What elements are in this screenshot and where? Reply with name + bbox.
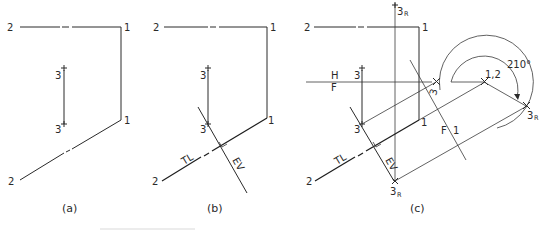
bottom-edge-artifact — [100, 228, 195, 230]
descriptive-geometry-figure: 2 1 3 3 1 2 (a) 2 1 3 3 1 2 TL EV (b) — [0, 0, 543, 231]
label-1-2: 1,2 — [485, 69, 501, 80]
angle-label-210: 210° — [507, 59, 531, 70]
label-3-bottom: 3 — [55, 124, 61, 135]
label-3-top: 3 — [55, 70, 61, 81]
label-f: F — [331, 82, 337, 93]
caption-c: (c) — [410, 202, 425, 215]
caption-a: (a) — [62, 202, 77, 215]
label-1-mid: 1 — [268, 115, 274, 126]
svg-text:R: R — [404, 10, 409, 18]
label-3-top: 3 — [200, 70, 206, 81]
label-3r-top: 3 R — [397, 6, 409, 18]
label-2-top: 2 — [7, 22, 13, 33]
label-ev: EV — [383, 156, 399, 173]
caption-b: (b) — [207, 202, 223, 215]
label-2-top: 2 — [153, 22, 159, 33]
label-h: H — [331, 70, 339, 81]
label-1-top: 1 — [270, 22, 276, 33]
svg-text:R: R — [534, 114, 539, 122]
panel-b: 2 1 3 3 1 2 TL EV (b) — [152, 22, 276, 215]
label-f-right: F — [441, 125, 447, 136]
label-tl: TL — [179, 151, 196, 167]
label-1-mid: 1 — [421, 117, 427, 128]
label-2-top: 2 — [304, 22, 310, 33]
label-1-top: 1 — [124, 22, 130, 33]
label-3-aux: 3 — [427, 88, 439, 97]
panel-a: 2 1 3 3 1 2 (a) — [7, 22, 130, 215]
svg-text:R: R — [397, 191, 402, 199]
svg-text:3: 3 — [527, 110, 533, 121]
label-tl: TL — [332, 151, 349, 167]
svg-text:3: 3 — [390, 186, 396, 197]
label-1-right: 1 — [453, 125, 459, 136]
label-3-bottom: 3 — [200, 124, 206, 135]
label-ev: EV — [230, 156, 246, 173]
label-3-top: 3 — [354, 70, 360, 81]
label-3r-right: 3 R — [527, 110, 539, 122]
label-3r-bottom: 3 R — [390, 186, 402, 199]
label-2-bottom: 2 — [306, 176, 312, 187]
label-3-bottom: 3 — [354, 124, 360, 135]
label-2-bottom: 2 — [152, 176, 158, 187]
label-1-top: 1 — [422, 22, 428, 33]
label-2-bottom: 2 — [8, 176, 14, 187]
svg-text:3: 3 — [397, 6, 403, 17]
label-1-mid: 1 — [124, 115, 130, 126]
panel-c: 2 1 3 3 1 2 TL EV H F F 1 3 R 3 R 3 1,2 … — [304, 2, 539, 215]
